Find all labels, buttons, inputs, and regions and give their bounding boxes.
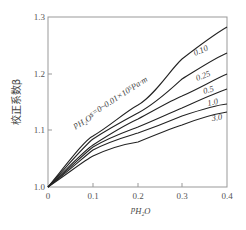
y-axis: 1.0 1.1 1.2 1.3 bbox=[34, 12, 52, 192]
x-tick-0.4: 0.4 bbox=[221, 191, 233, 201]
curve-1.0 bbox=[48, 104, 227, 187]
chart: 1.0 1.1 1.2 1.3 0 0.1 0.2 0.3 0.4 pH₂O 校… bbox=[0, 0, 246, 230]
y-tick-1.2: 1.2 bbox=[34, 69, 45, 79]
y-tick-1.3: 1.3 bbox=[34, 12, 46, 22]
x-axis-label: pH₂O bbox=[130, 204, 150, 216]
curve-annotation: pH₂Os=0~0.01×10⁵Pa·m bbox=[70, 74, 150, 132]
curve-0.5 bbox=[48, 89, 227, 187]
curve-label-3.0: 3.0 bbox=[210, 111, 224, 123]
y-axis-label: 校正系数β bbox=[10, 79, 22, 125]
curve-label-0.25: 0.25 bbox=[194, 68, 211, 82]
y-tick-1.1: 1.1 bbox=[34, 125, 45, 135]
curve-0.25 bbox=[48, 74, 227, 187]
x-tick-0.1: 0.1 bbox=[87, 191, 98, 201]
x-axis: 0 0.1 0.2 0.3 0.4 bbox=[46, 183, 233, 201]
curve-label-0.10: 0.10 bbox=[192, 42, 210, 57]
x-tick-0.3: 0.3 bbox=[176, 191, 188, 201]
x-tick-0.2: 0.2 bbox=[132, 191, 143, 201]
y-tick-1.0: 1.0 bbox=[34, 182, 46, 192]
x-tick-0: 0 bbox=[46, 191, 51, 201]
